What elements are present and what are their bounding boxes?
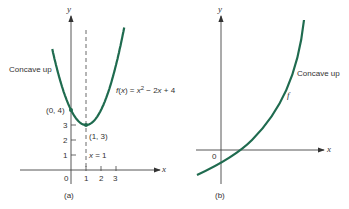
caption-a: (a) bbox=[64, 191, 74, 200]
panel-b: y x 0 Concave up f (b) bbox=[196, 4, 340, 200]
y-tick-3: 3 bbox=[63, 121, 68, 130]
point-0-4 bbox=[69, 108, 73, 112]
concave-up-label-a: Concave up bbox=[9, 65, 52, 74]
point-1-3 bbox=[84, 123, 88, 127]
x-axis-label-a: x bbox=[161, 164, 166, 174]
label-x-equals-1: x = 1 bbox=[88, 151, 107, 160]
label-point-0-4: (0, 4) bbox=[46, 106, 65, 115]
x-tick-3: 3 bbox=[113, 174, 118, 183]
x-axis-label-b: x bbox=[326, 144, 331, 154]
x-tick-0: 0 bbox=[64, 174, 69, 183]
function-label-b: f bbox=[287, 90, 291, 100]
panel-a: y x 0 1 2 3 1 2 3 (0, 4) (1, 3) x = 1 Co… bbox=[9, 4, 176, 200]
caption-b: (b) bbox=[215, 191, 225, 200]
x-tick-1: 1 bbox=[84, 174, 89, 183]
origin-label-b: 0 bbox=[212, 152, 217, 161]
y-tick-2: 2 bbox=[63, 136, 68, 145]
label-point-1-3: (1, 3) bbox=[89, 132, 108, 141]
figure: y x 0 1 2 3 1 2 3 (0, 4) (1, 3) x = 1 Co… bbox=[0, 0, 349, 209]
concave-up-label-b: Concave up bbox=[297, 69, 340, 78]
function-label-a: f(x) = x2 − 2x + 4 bbox=[116, 85, 176, 95]
y-tick-1: 1 bbox=[63, 151, 68, 160]
x-tick-2: 2 bbox=[99, 174, 104, 183]
y-axis-label-b: y bbox=[217, 4, 222, 14]
y-axis-label-a: y bbox=[66, 4, 71, 14]
